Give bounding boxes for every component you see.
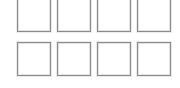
empty-tile-grid: empty empty empty empty empty empty empt… — [17, 0, 171, 76]
grid-tile-r2-c1[interactable]: empty — [17, 42, 51, 76]
tile-state: empty — [58, 43, 59, 44]
tile-grid-viewport: empty empty empty empty empty empty empt… — [0, 0, 180, 88]
grid-tile-r1-c2[interactable]: empty — [57, 0, 91, 32]
grid-tile-r1-c3[interactable]: empty — [97, 0, 131, 32]
grid-tile-r2-c3[interactable]: empty — [97, 42, 131, 76]
tile-state: empty — [98, 43, 99, 44]
grid-tile-r2-c4[interactable]: empty — [137, 42, 171, 76]
tile-state: empty — [18, 43, 19, 44]
grid-tile-r1-c1[interactable]: empty — [17, 0, 51, 32]
grid-tile-r2-c2[interactable]: empty — [57, 42, 91, 76]
grid-tile-r1-c4[interactable]: empty — [137, 0, 171, 32]
tile-state: empty — [138, 43, 139, 44]
